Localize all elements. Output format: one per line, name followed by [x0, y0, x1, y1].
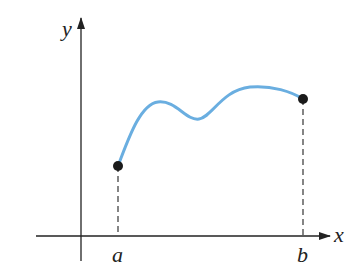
y-axis-label: y	[60, 16, 72, 41]
point-b	[298, 94, 308, 104]
x-axis-label: x	[333, 222, 344, 247]
function-curve	[118, 87, 303, 166]
function-graph: y x a b	[0, 0, 362, 276]
point-a-label: a	[112, 242, 123, 267]
point-b-label: b	[297, 242, 308, 267]
point-a	[113, 161, 123, 171]
